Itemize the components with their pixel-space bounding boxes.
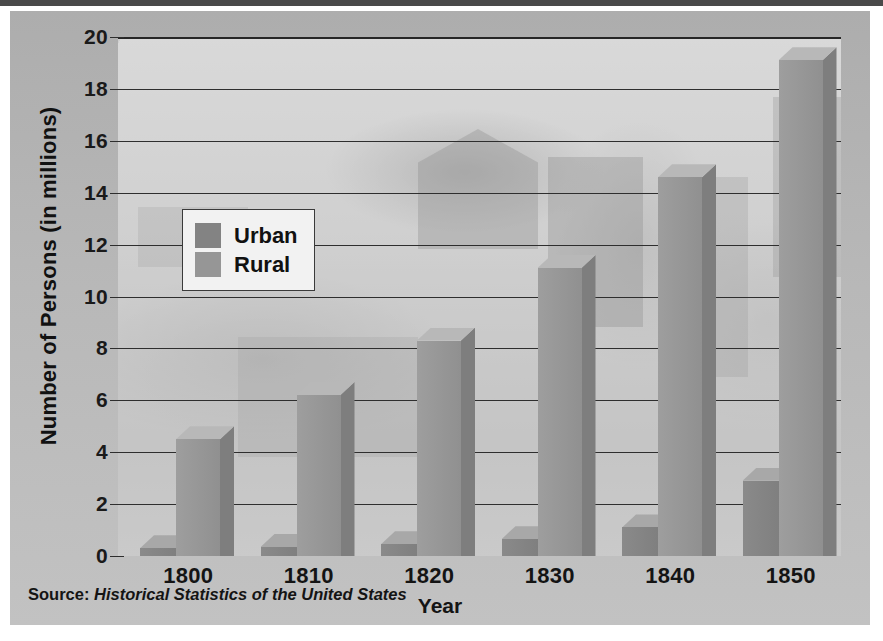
bar-front-face xyxy=(297,395,341,556)
y-axis-tick-label: 2 xyxy=(96,492,108,516)
gridline xyxy=(118,141,841,142)
x-axis-tick-label-1850: 1850 xyxy=(766,563,816,589)
gridline xyxy=(118,193,841,194)
y-axis-tick-label: 16 xyxy=(84,129,108,153)
y-axis-tick-label: 18 xyxy=(84,77,108,101)
x-axis-tick-label-1830: 1830 xyxy=(525,563,575,589)
y-axis-tick-mark xyxy=(110,297,124,298)
bar-front-face xyxy=(538,268,582,556)
bar-rural-1830 xyxy=(538,268,582,556)
y-axis-tick-label: 12 xyxy=(84,233,108,257)
y-axis-tick-label: 10 xyxy=(84,285,108,309)
legend-swatch-rural xyxy=(195,252,221,277)
y-axis-tick-mark xyxy=(110,245,124,246)
bar-side-face xyxy=(220,426,234,556)
x-axis-tick-label-1820: 1820 xyxy=(404,563,454,589)
y-axis-tick-mark xyxy=(110,452,124,453)
bar-front-face xyxy=(658,177,702,556)
gridline xyxy=(118,348,841,349)
source-title: Historical Statistics of the United Stat… xyxy=(94,585,407,603)
y-axis-tick-mark xyxy=(110,89,124,90)
bar-rural-1820 xyxy=(417,341,461,556)
bar-side-face xyxy=(341,382,355,556)
legend-swatch-urban xyxy=(195,223,221,248)
y-axis-tick-label: 6 xyxy=(96,388,108,412)
chart-legend: UrbanRural xyxy=(182,209,315,291)
bar-side-face xyxy=(823,47,837,556)
bar-rural-1800 xyxy=(176,439,220,556)
gridline xyxy=(118,297,841,298)
y-axis-tick-mark xyxy=(110,141,124,142)
y-axis-tick-label: 0 xyxy=(96,544,108,568)
bar-rural-1810 xyxy=(297,395,341,556)
bar-rural-1850 xyxy=(779,60,823,556)
bar-front-face xyxy=(779,60,823,556)
page-top-rule xyxy=(0,0,883,6)
y-axis-tick-label: 20 xyxy=(84,25,108,49)
legend-label-rural: Rural xyxy=(234,254,290,276)
legend-item-urban: Urban xyxy=(195,223,298,248)
y-axis-tick-mark xyxy=(110,556,124,557)
legend-item-rural: Rural xyxy=(195,252,298,277)
bar-front-face xyxy=(417,341,461,556)
y-axis-tick-label: 14 xyxy=(84,181,108,205)
y-axis-title: Number of Persons (in millions) xyxy=(36,41,62,511)
gridline xyxy=(118,37,841,39)
y-axis-tick-label: 8 xyxy=(96,336,108,360)
gridline xyxy=(118,89,841,90)
y-axis-tick-label: 4 xyxy=(96,440,108,464)
bar-rural-1840 xyxy=(658,177,702,556)
y-axis-tick-mark xyxy=(110,37,124,38)
gridline xyxy=(118,400,841,401)
bar-side-face xyxy=(702,164,716,556)
chart-screenshot: Number of Persons (in millions) 02468101… xyxy=(0,0,883,641)
bar-front-face xyxy=(176,439,220,556)
bar-side-face xyxy=(582,255,596,556)
y-axis-tick-mark xyxy=(110,400,124,401)
y-axis-tick-mark xyxy=(110,193,124,194)
chart-figure-panel: Number of Persons (in millions) 02468101… xyxy=(10,11,870,625)
plot-area xyxy=(118,37,841,556)
legend-label-urban: Urban xyxy=(234,225,298,247)
source-prefix: Source: xyxy=(28,585,89,603)
source-note: Source: Historical Statistics of the Uni… xyxy=(28,585,407,604)
y-axis-tick-labels: 02468101214161820 xyxy=(62,37,108,556)
y-axis-tick-mark xyxy=(110,504,124,505)
bar-side-face xyxy=(461,328,475,556)
y-axis-tick-mark xyxy=(110,348,124,349)
x-axis-tick-label-1840: 1840 xyxy=(645,563,695,589)
